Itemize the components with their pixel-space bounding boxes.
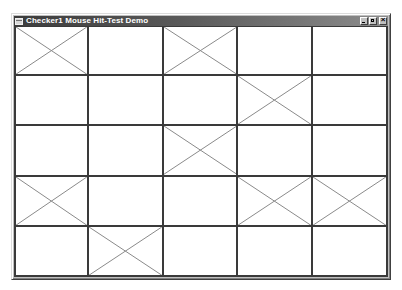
x-mark-icon (164, 126, 237, 174)
x-mark-icon (89, 227, 162, 275)
title-bar[interactable]: Checker1 Mouse Hit-Test Demo (14, 16, 388, 26)
grid-cell-r0-c3[interactable] (238, 26, 313, 76)
grid-cell-r4-c4[interactable] (313, 227, 388, 277)
client-area (14, 26, 388, 277)
grid-cell-r3-c4[interactable] (313, 177, 388, 227)
grid-cell-r2-c0[interactable] (14, 126, 89, 176)
grid-cell-r4-c3[interactable] (238, 227, 313, 277)
grid-cell-r4-c2[interactable] (164, 227, 239, 277)
grid-cell-r3-c1[interactable] (89, 177, 164, 227)
x-mark-icon (164, 27, 237, 74)
grid-cell-r3-c0[interactable] (14, 177, 89, 227)
grid-cell-r1-c2[interactable] (164, 76, 239, 126)
grid-cell-r2-c3[interactable] (238, 126, 313, 176)
grid-cell-r2-c4[interactable] (313, 126, 388, 176)
minimize-button[interactable] (360, 17, 368, 25)
grid-cell-r0-c4[interactable] (313, 26, 388, 76)
grid-cell-r3-c3[interactable] (238, 177, 313, 227)
checker-grid (14, 26, 388, 277)
grid-cell-r2-c1[interactable] (89, 126, 164, 176)
grid-cell-r1-c3[interactable] (238, 76, 313, 126)
x-mark-icon (16, 27, 87, 74)
grid-cell-r0-c0[interactable] (14, 26, 89, 76)
grid-cell-r1-c1[interactable] (89, 76, 164, 126)
grid-cell-r3-c2[interactable] (164, 177, 239, 227)
x-mark-icon (313, 177, 386, 225)
close-button[interactable] (379, 17, 387, 25)
maximize-button[interactable] (369, 17, 377, 25)
x-mark-icon (16, 177, 87, 225)
x-mark-icon (238, 177, 311, 225)
grid-cell-r1-c0[interactable] (14, 76, 89, 126)
grid-cell-r1-c4[interactable] (313, 76, 388, 126)
grid-cell-r0-c1[interactable] (89, 26, 164, 76)
x-mark-icon (238, 76, 311, 124)
app-window: Checker1 Mouse Hit-Test Demo (11, 13, 391, 280)
app-window-icon[interactable] (15, 18, 23, 25)
grid-cell-r4-c0[interactable] (14, 227, 89, 277)
window-title: Checker1 Mouse Hit-Test Demo (26, 16, 148, 26)
caption-buttons (359, 17, 387, 25)
grid-cell-r2-c2[interactable] (164, 126, 239, 176)
grid-cell-r0-c2[interactable] (164, 26, 239, 76)
grid-cell-r4-c1[interactable] (89, 227, 164, 277)
